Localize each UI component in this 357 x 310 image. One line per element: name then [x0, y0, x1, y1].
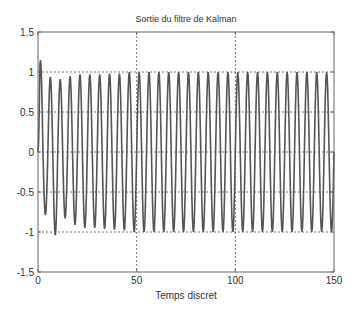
y-tick-label: 0 [28, 147, 34, 158]
chart-title: Sortie du filtre de Kalman [135, 14, 236, 24]
x-tick-label: 0 [35, 275, 41, 286]
x-tick-label: 150 [326, 275, 343, 286]
y-tick-label: -0.5 [17, 187, 35, 198]
y-tick-label: 0.5 [20, 107, 34, 118]
kalman-output-chart: Sortie du filtre de Kalman -1.5-1-0.500.… [0, 0, 357, 310]
y-tick-label: -1 [25, 227, 34, 238]
signal-line [38, 60, 334, 235]
x-tick-label: 100 [227, 275, 244, 286]
y-tick-label: 1.5 [20, 27, 34, 38]
x-axis-ticks: 050100150 [35, 32, 343, 286]
y-tick-label: -1.5 [17, 267, 35, 278]
y-tick-label: 1 [28, 67, 34, 78]
x-tick-label: 50 [131, 275, 143, 286]
x-axis-label: Temps discret [155, 290, 217, 301]
